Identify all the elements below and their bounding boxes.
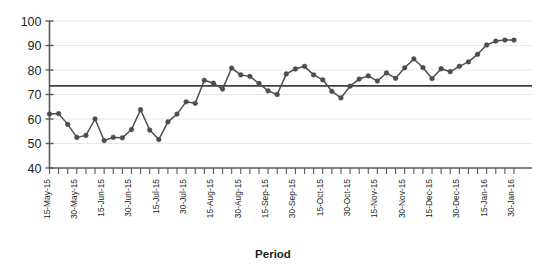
- data-point: [448, 69, 453, 74]
- data-point: [184, 99, 189, 104]
- data-point: [175, 112, 180, 117]
- x-axis-tick-label: 30-Aug-15: [233, 179, 243, 218]
- data-point: [439, 66, 444, 71]
- x-axis-tick-label: 15-May-15: [42, 179, 52, 219]
- data-point: [56, 111, 61, 116]
- data-point: [147, 128, 152, 133]
- data-point: [138, 107, 143, 112]
- x-axis-tick-label: 15-Jan-16: [479, 179, 489, 217]
- y-axis-tick-label: 70: [28, 88, 42, 102]
- data-point: [93, 117, 98, 122]
- x-axis-tick-label: 15-Jul-15: [151, 179, 161, 214]
- data-point: [384, 71, 389, 76]
- data-point: [220, 87, 225, 92]
- data-point: [211, 81, 216, 86]
- data-point: [257, 81, 262, 86]
- x-axis-tick-label: 15-Aug-15: [205, 179, 215, 218]
- data-point: [47, 112, 52, 117]
- data-point: [302, 64, 307, 69]
- y-axis-tick-label: 50: [28, 137, 42, 151]
- data-point: [102, 138, 107, 143]
- data-point: [120, 135, 125, 140]
- x-axis-tick-label: 30-Nov-15: [397, 179, 407, 218]
- data-point: [266, 88, 271, 93]
- y-axis-tick-label: 90: [28, 39, 42, 53]
- x-axis-tick-label: 15-Jun-15: [96, 179, 106, 217]
- x-axis-tick-label: 15-Dec-15: [424, 179, 434, 218]
- data-point: [311, 73, 316, 78]
- y-axis-tick-label: 40: [28, 162, 42, 176]
- data-point: [457, 64, 462, 69]
- data-point: [193, 101, 198, 106]
- x-axis-tick-label: 30-Jul-15: [178, 179, 188, 214]
- data-point: [247, 74, 252, 79]
- data-point: [475, 52, 480, 57]
- x-axis-tick-label: 15-Sep-15: [260, 179, 270, 218]
- data-point: [375, 79, 380, 84]
- data-point: [84, 133, 89, 138]
- data-point: [493, 39, 498, 44]
- data-point: [421, 65, 426, 70]
- y-axis-tick-label: 80: [28, 64, 42, 78]
- data-point: [348, 84, 353, 89]
- data-point: [366, 73, 371, 78]
- x-axis-tick-label: 30-Sep-15: [287, 179, 297, 218]
- data-point: [156, 137, 161, 142]
- data-point: [166, 120, 171, 125]
- data-point: [502, 38, 507, 43]
- data-point: [293, 67, 298, 72]
- data-point: [275, 92, 280, 97]
- data-point: [402, 65, 407, 70]
- data-point: [329, 89, 334, 94]
- chart-background: [0, 0, 546, 271]
- data-point: [202, 78, 207, 83]
- y-axis-tick-label: 100: [21, 15, 42, 29]
- data-point: [393, 76, 398, 81]
- data-point: [229, 66, 234, 71]
- data-point: [74, 135, 79, 140]
- data-point: [357, 77, 362, 82]
- data-point: [284, 72, 289, 77]
- data-point: [320, 77, 325, 82]
- x-axis-tick-label: 30-Jun-15: [123, 179, 133, 217]
- x-axis-title: Period: [255, 248, 291, 260]
- data-point: [238, 73, 243, 78]
- data-point: [411, 57, 416, 62]
- x-axis-tick-label: 30-May-15: [69, 179, 79, 219]
- x-axis-tick-label: 30-Dec-15: [451, 179, 461, 218]
- data-point: [339, 96, 344, 101]
- data-point: [484, 43, 489, 48]
- data-point: [129, 127, 134, 132]
- data-point: [111, 135, 116, 140]
- x-axis-tick-label: 15-Nov-15: [369, 179, 379, 218]
- data-point: [430, 76, 435, 81]
- x-axis-tick-label: 30-Jan-16: [506, 179, 516, 217]
- line-chart: 405060708090100 15-May-1530-May-1515-Jun…: [0, 0, 546, 271]
- x-axis-tick-label: 15-Oct-15: [315, 179, 325, 217]
- data-point: [65, 122, 70, 127]
- data-point: [512, 38, 517, 43]
- y-axis-tick-label: 60: [28, 113, 42, 127]
- data-point: [466, 60, 471, 65]
- x-axis-tick-label: 30-Oct-15: [342, 179, 352, 217]
- chart-canvas: 405060708090100 15-May-1530-May-1515-Jun…: [0, 0, 546, 271]
